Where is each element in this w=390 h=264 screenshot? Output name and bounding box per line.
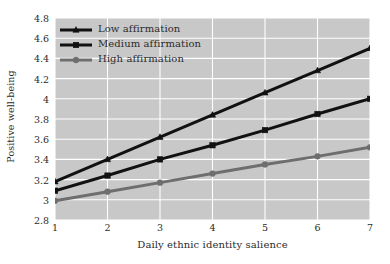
line-chart-figure: Positive well-being 2.833.23.43.63.844.2… (0, 0, 390, 264)
y-tick-label: 3.8 (34, 114, 49, 125)
y-tick-label: 3 (43, 194, 49, 205)
chart-legend: Low affirmationMedium affirmationHigh af… (58, 21, 228, 66)
x-tick-label: 2 (104, 222, 110, 233)
x-tick-label: 3 (157, 222, 163, 233)
y-tick-label: 2.8 (34, 215, 49, 226)
data-point-marker-circle (210, 171, 216, 177)
data-point-marker-square (73, 42, 78, 47)
data-point-marker-square (105, 173, 110, 178)
data-point-marker-circle (315, 153, 321, 159)
y-tick-label: 4.2 (34, 73, 49, 84)
y-axis-title-text: Positive well-being (5, 70, 16, 162)
data-point-marker-circle (157, 180, 163, 186)
legend-label: Medium affirmation (98, 38, 201, 49)
y-tick-label: 3.6 (34, 134, 49, 145)
y-tick-label: 4.6 (34, 33, 49, 44)
data-point-marker-circle (262, 162, 268, 168)
y-tick-label: 4.8 (34, 13, 49, 24)
legend-item-1: Low affirmation (58, 21, 228, 36)
legend-item-2: Medium affirmation (58, 36, 228, 51)
y-tick-label: 4.4 (34, 53, 49, 64)
x-tick-label: 7 (367, 222, 373, 233)
y-tick-label: 4 (43, 93, 49, 104)
data-point-marker-square (315, 111, 320, 116)
x-tick-label: 4 (209, 222, 215, 233)
x-axis-title-text: Daily ethnic identity salience (137, 239, 287, 250)
data-point-marker-circle (105, 189, 111, 195)
legend-key-triangle-icon (58, 22, 94, 36)
data-point-marker-square (157, 157, 162, 162)
x-axis-tick-labels: 1234567 (55, 222, 370, 238)
x-tick-label: 1 (52, 222, 58, 233)
data-point-marker-circle (73, 57, 79, 63)
legend-label: High affirmation (98, 53, 184, 64)
y-tick-label: 3.4 (34, 154, 49, 165)
x-axis-title: Daily ethnic identity salience (55, 239, 370, 250)
y-axis-tick-labels: 2.833.23.43.63.844.24.44.64.8 (18, 0, 52, 264)
legend-key-circle-icon (58, 52, 94, 66)
data-point-marker-square (55, 188, 58, 193)
y-tick-label: 3.2 (34, 174, 49, 185)
data-point-marker-square (262, 127, 267, 132)
data-point-marker-square (367, 96, 370, 101)
legend-label: Low affirmation (98, 23, 180, 34)
legend-item-3: High affirmation (58, 51, 228, 66)
data-point-marker-circle (55, 198, 58, 204)
legend-key-canvas (58, 38, 94, 52)
legend-key-canvas (58, 53, 94, 67)
data-point-marker-square (210, 143, 215, 148)
data-point-marker-circle (367, 144, 370, 150)
x-tick-label: 6 (314, 222, 320, 233)
y-axis-title: Positive well-being (0, 0, 20, 232)
x-tick-label: 5 (262, 222, 268, 233)
data-point-marker-triangle (367, 45, 370, 51)
legend-key-canvas (58, 23, 94, 37)
legend-key-square-icon (58, 37, 94, 51)
